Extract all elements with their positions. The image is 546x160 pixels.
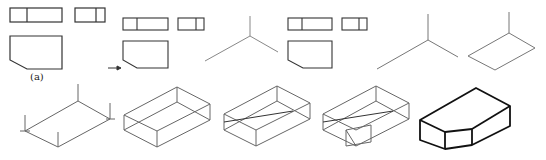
base-face [468, 12, 535, 70]
step-3-views [288, 18, 367, 68]
step-1-views [10, 8, 105, 69]
step-2-views [123, 18, 204, 68]
arrow-icon [108, 66, 121, 70]
step-5-box [124, 87, 210, 147]
axes-1 [205, 16, 278, 61]
isometric-construction-diagram [0, 0, 546, 160]
step-4-base [20, 84, 115, 147]
axes-2 [377, 14, 458, 69]
step-8-solid [420, 88, 510, 149]
step-6-box [224, 86, 310, 146]
figure-label: (a) [30, 71, 44, 82]
step-7-box [323, 86, 409, 146]
